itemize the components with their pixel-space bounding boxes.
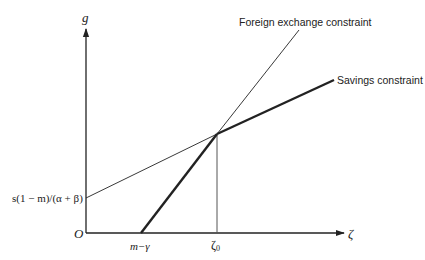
- m-gamma-tick-label: m−γ: [130, 240, 150, 252]
- savings-constraint-line: [217, 80, 334, 134]
- y-axis-label: g: [82, 10, 89, 25]
- zeta0-tick-label: ζ0: [211, 238, 220, 253]
- x-axis-label: ζ: [348, 226, 354, 241]
- y-intercept-label: s(1 − m)/(α + β): [12, 192, 83, 205]
- two-gap-diagram: g ζ O s(1 − m)/(α + β) m−γ ζ0 Foreign ex…: [0, 0, 425, 260]
- foreign-exchange-constraint-line: [217, 30, 299, 134]
- savings-constraint-label: Savings constraint: [337, 74, 423, 86]
- foreign-exchange-constraint-label: Foreign exchange constraint: [239, 16, 372, 28]
- zeta0-subscript: 0: [216, 244, 220, 253]
- foreign-exchange-thick-segment: [141, 134, 217, 233]
- savings-constraint-thin-segment: [86, 134, 217, 198]
- origin-label: O: [74, 226, 84, 241]
